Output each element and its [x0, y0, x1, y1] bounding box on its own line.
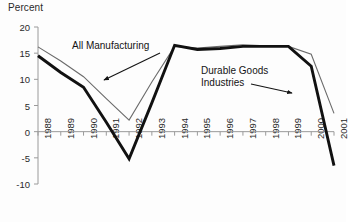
- annotation-durable-line-1: Durable Goods: [201, 65, 268, 76]
- annotation-all-manufacturing: All Manufacturing: [72, 40, 149, 52]
- data-series-lines: [38, 45, 334, 166]
- annotation-durable-goods-industries: Durable Goods Industries: [201, 65, 268, 89]
- y-axis-ticks: [34, 27, 38, 184]
- x-axis-ticks: [38, 132, 334, 136]
- annotation-durable-line-2: Industries: [201, 77, 244, 88]
